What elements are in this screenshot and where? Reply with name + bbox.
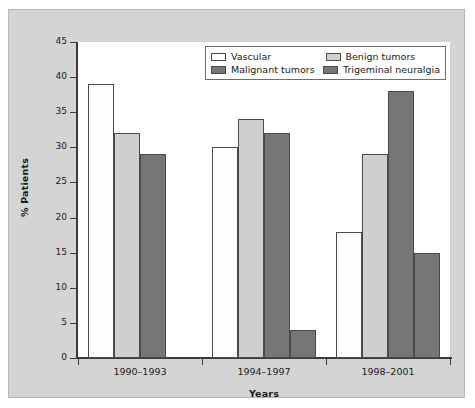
y-axis-tick — [70, 218, 76, 219]
y-axis-tick-label-text: 35 — [39, 107, 67, 116]
y-axis-tick-label-text: 10 — [39, 283, 67, 292]
legend-swatch-icon — [326, 53, 341, 61]
bar — [140, 154, 166, 358]
x-axis-tick-label: 1990–1993 — [80, 367, 200, 377]
y-axis-tick — [70, 253, 76, 254]
y-axis-tick-label: 40 — [39, 72, 67, 82]
legend-swatch-icon — [211, 66, 226, 74]
y-axis-tick-label-text: 45 — [39, 37, 67, 46]
y-axis-tick-label-text: 30 — [39, 142, 67, 151]
figure: 051015202530354045 1990–19931994–1997199… — [0, 0, 475, 408]
legend-item-malignant-tumors: Malignant tumors — [211, 63, 323, 76]
bar — [238, 119, 264, 358]
legend-swatch-icon — [211, 53, 226, 61]
bar — [336, 232, 362, 358]
y-axis-tick-label-text: 25 — [39, 177, 67, 186]
x-axis-title: Years — [78, 388, 450, 399]
x-axis-tick — [450, 359, 451, 365]
bar — [88, 84, 114, 358]
legend-row: Vascular Benign tumors — [211, 50, 440, 63]
y-axis-tick — [70, 112, 76, 113]
y-axis-tick — [70, 147, 76, 148]
y-axis-tick-label: 45 — [39, 37, 67, 47]
y-axis-tick-label: 15 — [39, 248, 67, 258]
y-axis-tick — [70, 42, 76, 43]
bar — [290, 330, 316, 358]
x-axis-tick-label: 1994–1997 — [204, 367, 324, 377]
bar — [264, 133, 290, 358]
y-axis-tick-label-text: 15 — [39, 248, 67, 257]
y-axis-tick-label: 10 — [39, 283, 67, 293]
bar — [362, 154, 388, 358]
y-axis-tick-label: 20 — [39, 213, 67, 223]
legend-item-benign-tumors: Benign tumors — [326, 50, 441, 63]
legend-row: Malignant tumors Trigeminal neuralgia — [211, 63, 440, 76]
bar-group — [336, 42, 440, 358]
bar — [388, 91, 414, 358]
y-axis-tick-label-text: 20 — [39, 213, 67, 222]
y-axis-tick-label: 0 — [39, 353, 67, 363]
chart-panel: 051015202530354045 1990–19931994–1997199… — [8, 9, 465, 398]
legend-label: Trigeminal neuralgia — [343, 65, 440, 75]
y-axis-tick-label-text: 0 — [39, 353, 67, 362]
y-axis-tick — [70, 77, 76, 78]
bar-group — [88, 42, 192, 358]
bar — [212, 147, 238, 358]
y-axis-tick-label-text: 5 — [39, 318, 67, 327]
y-axis-tick-label: 25 — [39, 177, 67, 187]
y-axis-tick — [70, 323, 76, 324]
bar-group — [212, 42, 316, 358]
legend-label: Benign tumors — [346, 52, 416, 62]
legend-label: Vascular — [231, 52, 271, 62]
bars-layer — [78, 42, 450, 358]
x-axis-tick-label: 1998–2001 — [328, 367, 448, 377]
legend-label: Malignant tumors — [231, 65, 315, 75]
x-axis-tick — [202, 359, 203, 365]
x-axis-tick — [326, 359, 327, 365]
bar — [114, 133, 140, 358]
legend-item-vascular: Vascular — [211, 50, 326, 63]
y-axis-tick-label: 5 — [39, 318, 67, 328]
y-axis-tick-label: 35 — [39, 107, 67, 117]
bar — [414, 253, 440, 358]
x-axis-tick — [78, 359, 79, 365]
legend-swatch-icon — [323, 66, 338, 74]
legend: Vascular Benign tumors Malignant tumors … — [205, 46, 446, 80]
y-axis-tick — [70, 182, 76, 183]
y-axis-tick — [70, 358, 76, 359]
legend-item-trigeminal-neuralgia: Trigeminal neuralgia — [323, 63, 440, 76]
y-axis-tick-label-text: 40 — [39, 72, 67, 81]
y-axis-tick-label: 30 — [39, 142, 67, 152]
y-axis-tick — [70, 288, 76, 289]
y-axis-title: % Patients — [19, 133, 30, 243]
